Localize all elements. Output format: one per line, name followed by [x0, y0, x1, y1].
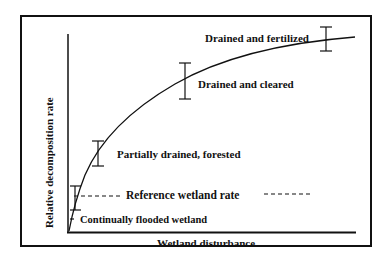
chart-figure: Drained and fertilized Drained and clear… [0, 0, 390, 272]
label-cleared: Drained and cleared [198, 78, 294, 90]
label-partial: Partially drained, forested [117, 148, 241, 160]
x-axis-label: Wetland disturbance [157, 237, 255, 249]
label-reference: Reference wetland rate [126, 189, 239, 201]
y-axis-label: Relative decomposition rate [43, 97, 55, 228]
label-fertilized: Drained and fertilized [205, 32, 309, 44]
label-flooded: Continually flooded wetland [80, 214, 207, 225]
error-bars [70, 27, 332, 210]
decomposition-curve [69, 37, 355, 231]
